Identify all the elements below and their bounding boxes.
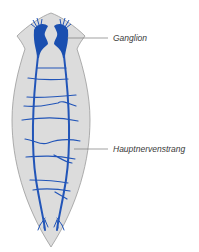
planarian-diagram xyxy=(0,0,199,252)
planarian-body xyxy=(12,13,90,247)
main-nerve-cord-label: Hauptnervenstrang xyxy=(113,145,185,154)
ganglion-label: Ganglion xyxy=(113,34,147,43)
